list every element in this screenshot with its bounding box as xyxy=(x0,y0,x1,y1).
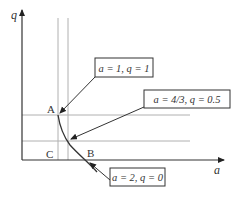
annotation-a1-q1: a = 1, q = 1 xyxy=(95,58,153,77)
point-label-c: C xyxy=(46,148,53,160)
annotation-a2-q0: a = 2, q = 0 xyxy=(110,168,165,186)
annotation-text-a2-q0: a = 2, q = 0 xyxy=(112,172,164,183)
annotation-a43-q05: a = 4/3, q = 0.5 xyxy=(144,90,230,108)
pointer-a2-q0 xyxy=(90,163,110,180)
point-label-b: B xyxy=(87,147,94,159)
q-vs-a-diagram: q a A C B a = 1, q = 1 a = 4/3, q = 0.5 … xyxy=(0,0,234,199)
guide-lines xyxy=(22,18,190,160)
y-axis-label: q xyxy=(11,8,17,22)
point-label-a: A xyxy=(47,103,55,115)
annotation-text-a43-q05: a = 4/3, q = 0.5 xyxy=(154,94,221,105)
x-axis-label: a xyxy=(214,163,220,177)
pointer-a1-q1 xyxy=(60,76,96,113)
annotation-text-a1-q1: a = 1, q = 1 xyxy=(99,63,150,74)
pointer-a43-q05 xyxy=(71,107,144,139)
